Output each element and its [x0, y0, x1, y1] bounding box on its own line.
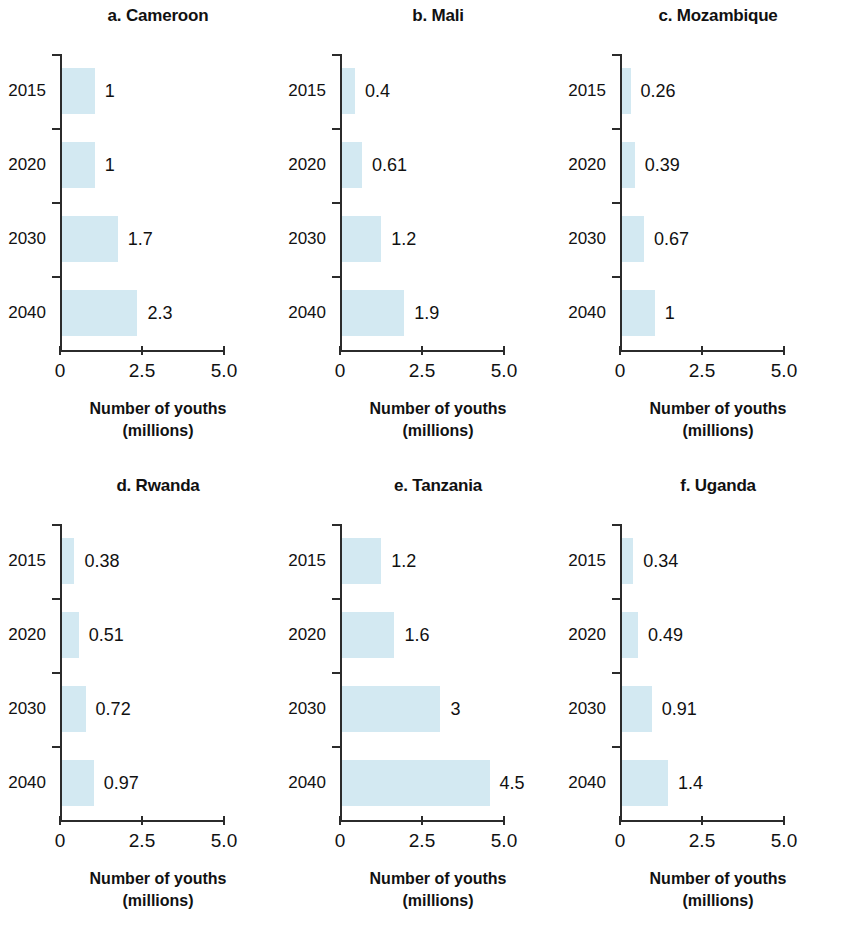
x-axis-tick — [701, 816, 703, 825]
bar-e-2020 — [342, 612, 394, 658]
y-axis-category-label: 2020 — [8, 155, 46, 175]
y-axis-category-label: 2030 — [568, 699, 606, 719]
bar-f-2040 — [622, 760, 668, 806]
panel-title-b: b. Mali — [298, 6, 578, 26]
y-axis-tick — [52, 672, 61, 674]
panel-f: f. Uganda02.55.00.3420150.4920200.912030… — [578, 470, 841, 933]
y-axis-category: 2020 — [0, 142, 60, 188]
y-axis-category: 2015 — [220, 68, 340, 114]
y-axis-category-label: 2040 — [8, 303, 46, 323]
x-axis-tick-label: 2.5 — [409, 830, 435, 852]
y-axis-category-label: 2040 — [288, 303, 326, 323]
bar-value-label: 1 — [105, 81, 115, 102]
bar-row: 0.4 — [342, 68, 506, 114]
bar-value-label: 0.49 — [648, 625, 683, 646]
x-axis-tick-label: 2.5 — [129, 830, 155, 852]
y-axis-category-label: 2015 — [568, 81, 606, 101]
x-axis-caption-line1: Number of youths — [90, 400, 227, 417]
y-axis-category-label: 2030 — [288, 699, 326, 719]
bar-e-2015 — [342, 538, 381, 584]
y-axis-tick — [612, 54, 621, 56]
bar-row: 0.91 — [622, 686, 786, 732]
bar-value-label: 1.6 — [404, 625, 429, 646]
bar-value-label: 0.39 — [645, 155, 680, 176]
plot-area-e: 02.55.01.220151.62020320304.52040 — [340, 524, 504, 820]
y-axis-category-label: 2015 — [8, 81, 46, 101]
bar-value-label: 0.38 — [84, 551, 119, 572]
bar-b-2020 — [342, 142, 362, 188]
x-axis-tick-label: 0 — [615, 360, 626, 382]
x-axis-tick-label: 5.0 — [491, 830, 517, 852]
y-axis-category-label: 2040 — [288, 773, 326, 793]
x-axis-tick — [59, 816, 61, 825]
y-axis-category: 2020 — [500, 612, 620, 658]
x-axis-tick-label: 0 — [615, 830, 626, 852]
bar-value-label: 2.3 — [147, 303, 172, 324]
y-axis-category: 2015 — [500, 538, 620, 584]
x-axis-caption-line1: Number of youths — [90, 870, 227, 887]
bar-a-2030 — [62, 216, 118, 262]
panel-title-e: e. Tanzania — [298, 476, 578, 496]
bar-row: 0.34 — [622, 538, 786, 584]
bar-row: 0.38 — [62, 538, 226, 584]
plot-area-c: 02.55.00.2620150.3920200.67203012040 — [620, 54, 784, 350]
y-axis-category-label: 2040 — [8, 773, 46, 793]
bar-row: 1.4 — [622, 760, 786, 806]
panel-title-c: c. Mozambique — [578, 6, 841, 26]
y-axis-tick — [332, 54, 341, 56]
x-axis-tick-label: 5.0 — [491, 360, 517, 382]
x-axis-tick — [619, 816, 621, 825]
bar-row: 0.97 — [62, 760, 226, 806]
x-axis-caption-c: Number of youths(millions) — [578, 398, 841, 441]
bar-row: 0.61 — [342, 142, 506, 188]
bar-value-label: 1 — [665, 303, 675, 324]
bar-e-2030 — [342, 686, 440, 732]
y-axis-category: 2040 — [220, 290, 340, 336]
y-axis-tick — [612, 598, 621, 600]
y-axis-category: 2020 — [500, 142, 620, 188]
x-axis-caption-line1: Number of youths — [650, 400, 787, 417]
bar-b-2015 — [342, 68, 355, 114]
bar-value-label: 0.72 — [96, 699, 131, 720]
y-axis-category: 2015 — [500, 68, 620, 114]
bar-c-2040 — [622, 290, 655, 336]
y-axis-category-label: 2020 — [8, 625, 46, 645]
y-axis-category-label: 2030 — [8, 699, 46, 719]
y-axis-tick — [52, 128, 61, 130]
bar-value-label: 1.7 — [128, 229, 153, 250]
y-axis-category: 2030 — [220, 216, 340, 262]
x-axis-tick-label: 0 — [335, 830, 346, 852]
y-axis-category: 2015 — [0, 68, 60, 114]
x-axis-tick — [141, 816, 143, 825]
y-axis-category: 2015 — [0, 538, 60, 584]
bar-row: 0.72 — [62, 686, 226, 732]
bar-row: 1 — [62, 68, 226, 114]
bar-value-label: 0.34 — [643, 551, 678, 572]
y-axis-tick — [612, 746, 621, 748]
bar-b-2040 — [342, 290, 404, 336]
bar-row: 1.2 — [342, 538, 506, 584]
bar-value-label: 0.4 — [365, 81, 390, 102]
x-axis-caption-f: Number of youths(millions) — [578, 868, 841, 911]
y-axis-category: 2040 — [220, 760, 340, 806]
y-axis-tick — [52, 524, 61, 526]
bar-row: 0.49 — [622, 612, 786, 658]
y-axis-tick — [332, 276, 341, 278]
bar-row: 2.3 — [62, 290, 226, 336]
x-axis-tick — [223, 346, 225, 355]
y-axis-category-label: 2040 — [568, 303, 606, 323]
x-axis-tick — [783, 816, 785, 825]
bar-row: 4.5 — [342, 760, 506, 806]
x-axis-caption-e: Number of youths(millions) — [298, 868, 578, 911]
panel-title-a: a. Cameroon — [18, 6, 298, 26]
x-axis-tick — [619, 346, 621, 355]
panel-c: c. Mozambique02.55.00.2620150.3920200.67… — [578, 0, 841, 470]
plot-area-b: 02.55.00.420150.6120201.220301.92040 — [340, 54, 504, 350]
bar-a-2015 — [62, 68, 95, 114]
x-axis-caption-line2: (millions) — [578, 420, 841, 442]
x-axis-tick — [503, 346, 505, 355]
bar-value-label: 0.26 — [641, 81, 676, 102]
x-axis-tick-label: 5.0 — [771, 830, 797, 852]
x-axis-caption-b: Number of youths(millions) — [298, 398, 578, 441]
y-axis-category-label: 2015 — [288, 551, 326, 571]
